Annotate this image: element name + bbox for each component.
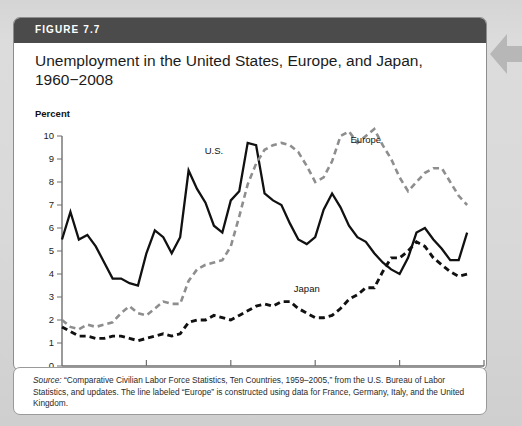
series-label-us: U.S. <box>205 145 223 156</box>
figure-card: FIGURE 7.7 Unemployment in the United St… <box>13 17 487 371</box>
edge-arrow-icon <box>490 28 522 80</box>
y-axis-tick-label: 7 <box>49 199 54 210</box>
figure-title-line-1: Unemployment in the United States, Europ… <box>35 52 423 69</box>
series-label-europe: Europe <box>351 134 382 145</box>
figure-number-label: FIGURE 7.7 <box>35 24 100 35</box>
series-line-europe <box>62 129 467 329</box>
y-axis-tick-label: 2 <box>49 314 54 325</box>
chart-plot-area: 012345678910196019701980199020002010Year… <box>14 118 487 371</box>
y-axis-tick-label: 9 <box>49 153 54 164</box>
source-label: Source: <box>33 375 62 385</box>
y-axis-tick-label: 10 <box>43 130 54 141</box>
y-axis-tick-label: 4 <box>49 268 54 279</box>
source-note-text: Source: “Comparative Civilian Labor Forc… <box>33 375 473 410</box>
line-chart: 012345678910196019701980199020002010Year… <box>14 118 487 371</box>
y-axis-tick-label: 3 <box>49 291 54 302</box>
figure-title: Unemployment in the United States, Europ… <box>35 51 455 89</box>
series-line-japan <box>62 242 467 341</box>
series-line-us <box>62 143 467 286</box>
y-axis-tick-label: 1 <box>49 337 54 348</box>
series-label-japan: Japan <box>294 283 320 294</box>
source-note-card: Source: “Comparative Civilian Labor Forc… <box>13 367 487 415</box>
figure-root: FIGURE 7.7 Unemployment in the United St… <box>0 0 522 426</box>
source-body: “Comparative Civilian Labor Force Statis… <box>33 375 464 408</box>
y-axis-tick-label: 5 <box>49 245 54 256</box>
figure-title-line-2: 1960−2008 <box>35 71 113 88</box>
y-axis-tick-label: 6 <box>49 222 54 233</box>
y-axis-tick-label: 8 <box>49 176 54 187</box>
